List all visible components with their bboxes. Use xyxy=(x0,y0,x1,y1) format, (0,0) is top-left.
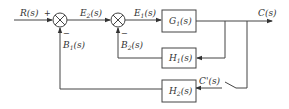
e1-label: E1(s) xyxy=(133,8,157,19)
summing-junction-1 xyxy=(53,13,67,27)
output-label: C(s) xyxy=(258,8,277,18)
block-diagram: R(s) + − E2(s) − E1(s) G1(s) C(s) H1(s) xyxy=(0,0,289,109)
sum1-minus-sign: − xyxy=(63,29,70,38)
feedback-switch xyxy=(225,82,236,88)
input-label: R(s) xyxy=(19,8,39,18)
e2-label: E2(s) xyxy=(79,8,103,19)
sum1-plus-sign: + xyxy=(44,9,51,18)
svg-text:H1(s): H1(s) xyxy=(168,53,193,64)
block-g1: G1(s) xyxy=(162,10,196,32)
cprime-label: C'(s) xyxy=(199,76,221,86)
block-h2: H2(s) xyxy=(162,80,196,102)
b2-label: B2(s) xyxy=(120,40,144,51)
summing-junction-2 xyxy=(111,13,125,27)
svg-text:H2(s): H2(s) xyxy=(168,86,193,97)
outer-feedback-branch xyxy=(236,21,247,88)
sum2-minus-sign: − xyxy=(121,29,128,38)
inner-feedback-branch xyxy=(197,21,225,58)
svg-text:G1(s): G1(s) xyxy=(169,16,192,27)
b1-label: B1(s) xyxy=(62,40,86,51)
block-h1: H1(s) xyxy=(162,48,196,68)
